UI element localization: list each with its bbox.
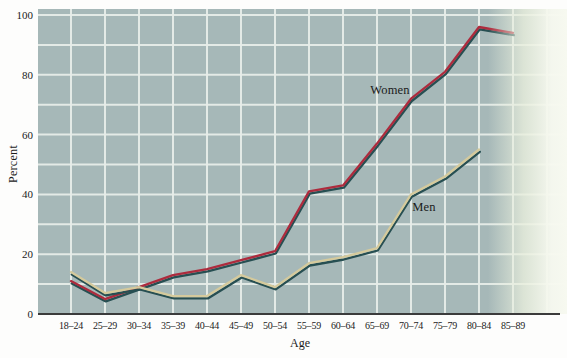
- page-edge-fade: [488, 9, 567, 314]
- y-tick-label-40: 40: [0, 187, 33, 201]
- y-tick-label-60: 60: [0, 128, 33, 142]
- y-tick-label-80: 80: [0, 68, 33, 82]
- y-tick-label-100: 100: [0, 8, 33, 22]
- figure-percent-by-age-chart: Percent 020406080100 18–2425–2930–3435–3…: [0, 0, 567, 358]
- annotation-women: Women: [355, 83, 425, 98]
- annotation-men: Men: [389, 200, 459, 215]
- x-axis-title: Age: [260, 336, 340, 351]
- y-axis-title: Percent: [6, 145, 21, 183]
- line-chart-canvas: [0, 0, 567, 358]
- y-tick-label-20: 20: [0, 247, 33, 261]
- x-tick-label-85-89: 85–89: [491, 319, 535, 332]
- y-tick-label-0: 0: [0, 307, 33, 321]
